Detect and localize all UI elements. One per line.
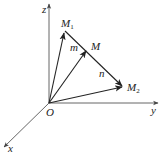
point-m2-subscript: 2 [136,87,140,95]
x-axis-label: x [7,142,13,154]
point-m1-label: M1 [60,17,74,31]
vector-o-m2 [49,87,122,103]
y-axis-label: y [150,104,156,116]
vector-diagram: z y x O M1 M M2 m n [0,0,163,158]
segment-label-m: m [70,41,78,53]
point-m1-subscript: 1 [70,23,74,31]
origin-label: O [46,106,54,118]
segment-label-n: n [99,67,105,79]
x-axis [4,103,49,147]
point-m2-label: M2 [126,81,140,95]
z-axis-label: z [41,3,47,15]
point-m-label: M [90,40,101,52]
